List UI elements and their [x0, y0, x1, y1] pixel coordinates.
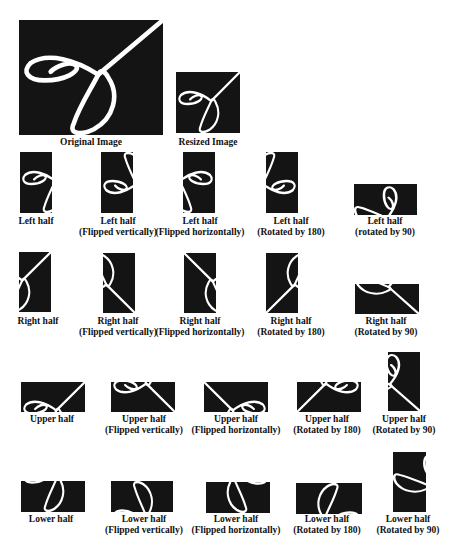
label-line2: (Flipped vertically) [79, 327, 157, 338]
label-line1: Lower half [377, 514, 440, 525]
label-line2: (Rotated by 180) [293, 525, 361, 536]
label-text: Original Image [60, 137, 122, 148]
right-half-rotated-90-label: Right half (Rotated by 90) [355, 316, 418, 338]
label-line2: (Flipped vertically) [105, 525, 183, 536]
upper-half-rotated-180-image [297, 382, 361, 412]
lower-half-rotated-180-label: Lower half (Rotated by 180) [293, 514, 361, 536]
left-half-flipped-horizontally-image [183, 152, 215, 213]
original-image [19, 20, 163, 135]
label-line2: (Rotated by 90) [355, 327, 418, 338]
label-text: Resized Image [179, 137, 238, 148]
label-line1: Upper half [373, 414, 436, 425]
left-half-label: Left half [18, 216, 53, 227]
lower-half-rotated-180-image [296, 483, 362, 514]
lower-half-rotated-90-label: Lower half (Rotated by 90) [377, 514, 440, 536]
label-line1: Right half [355, 316, 418, 327]
left-half-rotated-90-image [354, 184, 417, 215]
label-line1: Upper half [293, 414, 361, 425]
label-line2: (Rotated by 180) [293, 425, 361, 436]
lower-half-flipped-horizontally-image [206, 482, 270, 513]
left-half-image [20, 152, 52, 213]
label-line1: Lower half [105, 514, 183, 525]
lower-half-flipped-vertically-image [111, 481, 173, 512]
label-line1: Right half [18, 316, 59, 327]
upper-half-rotated-90-label: Upper half (Rotated by 90) [373, 414, 436, 436]
upper-half-flipped-vertically-label: Upper half (Flipped vertically) [105, 414, 183, 436]
left-half-flipped-horizontally-label: Left half (Flipped horizontally) [156, 216, 245, 238]
left-half-rotated-180-image [266, 152, 298, 213]
label-line1: Upper half [192, 414, 281, 425]
right-half-flipped-vertically-image [103, 253, 135, 313]
upper-half-rotated-180-label: Upper half (Rotated by 180) [293, 414, 361, 436]
upper-half-flipped-vertically-image [111, 382, 175, 412]
upper-half-label: Upper half [30, 414, 74, 425]
upper-half-image [21, 382, 85, 412]
label-line2: (Flipped horizontally) [156, 327, 245, 338]
label-line2: (Rotated by 90) [377, 525, 440, 536]
right-half-flipped-vertically-label: Right half (Flipped vertically) [79, 316, 157, 338]
lower-half-rotated-90-image [393, 452, 426, 512]
label-line1: Left half [18, 216, 53, 227]
left-half-rotated-180-label: Left half (Rotated by 180) [257, 216, 325, 238]
label-line1: Upper half [30, 414, 74, 425]
label-line2: (Flipped vertically) [79, 227, 157, 238]
label-line2: (Rotated by 180) [257, 227, 325, 238]
left-half-flipped-vertically-image [101, 152, 133, 213]
right-half-rotated-90-image [355, 284, 419, 314]
resized-image [176, 72, 240, 133]
label-line1: Left half [257, 216, 325, 227]
original-image-label: Original Image [60, 137, 122, 148]
label-line2: (Flipped horizontally) [192, 425, 281, 436]
label-line2: (Rotated by 180) [257, 327, 325, 338]
lower-half-image [21, 481, 85, 512]
label-line1: Right half [257, 316, 325, 327]
label-line1: Left half [79, 216, 157, 227]
upper-half-rotated-90-image [388, 352, 420, 411]
resized-image-label: Resized Image [179, 137, 238, 148]
label-line1: Lower half [293, 514, 361, 525]
label-line2: (Flipped horizontally) [192, 525, 281, 536]
label-line1: Upper half [105, 414, 183, 425]
lower-half-flipped-horizontally-label: Lower half (Flipped horizontally) [192, 514, 281, 536]
label-line2: (rotated by 90) [355, 227, 415, 238]
right-half-rotated-180-image [266, 253, 298, 313]
label-line2: (Rotated by 90) [373, 425, 436, 436]
label-line1: Right half [156, 316, 245, 327]
label-line1: Left half [355, 216, 415, 227]
right-half-image [19, 252, 51, 312]
lower-half-flipped-vertically-label: Lower half (Flipped vertically) [105, 514, 183, 536]
upper-half-flipped-horizontally-image [204, 382, 268, 412]
label-line2: (Flipped horizontally) [156, 227, 245, 238]
left-half-flipped-vertically-label: Left half (Flipped vertically) [79, 216, 157, 238]
label-line2: (Flipped vertically) [105, 425, 183, 436]
right-half-flipped-horizontally-label: Right half (Flipped horizontally) [156, 316, 245, 338]
label-line1: Lower half [192, 514, 281, 525]
right-half-label: Right half [18, 316, 59, 327]
label-line1: Lower half [29, 514, 73, 525]
label-line1: Left half [156, 216, 245, 227]
left-half-rotated-90-label: Left half (rotated by 90) [355, 216, 415, 238]
lower-half-label: Lower half [29, 514, 73, 525]
right-half-rotated-180-label: Right half (Rotated by 180) [257, 316, 325, 338]
right-half-flipped-horizontally-image [184, 253, 216, 313]
upper-half-flipped-horizontally-label: Upper half (Flipped horizontally) [192, 414, 281, 436]
label-line1: Right half [79, 316, 157, 327]
